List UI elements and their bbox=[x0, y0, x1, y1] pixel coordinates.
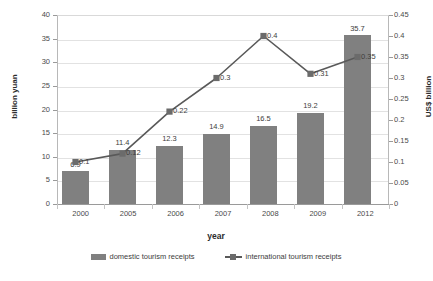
legend-item-domestic: domestic tourism receipts bbox=[91, 252, 195, 261]
x-axis-tick-2008: 2008 bbox=[247, 209, 294, 218]
x-axis-tick-2005: 2005 bbox=[104, 209, 151, 218]
marker-2006 bbox=[166, 109, 172, 115]
title-artifact bbox=[62, 1, 212, 5]
x-axis-title: year bbox=[0, 231, 432, 241]
point-label-2012: 0.35 bbox=[361, 53, 376, 61]
y-axis-tick-right: 0.15 bbox=[394, 137, 424, 145]
marker-2005 bbox=[119, 151, 125, 157]
y-axis-tick-left: 15 bbox=[26, 129, 50, 137]
point-label-2007: 0.3 bbox=[220, 74, 230, 82]
marker-2008 bbox=[260, 33, 266, 39]
point-label-2000: 0.1 bbox=[79, 158, 89, 166]
y-axis-tick-right: 0.45 bbox=[394, 11, 424, 19]
x-axis-tick-2012: 2012 bbox=[342, 209, 389, 218]
point-label-2006: 0.22 bbox=[173, 107, 188, 115]
x-axis-tick-2007: 2007 bbox=[199, 209, 246, 218]
y-axis-tick-right: 0.05 bbox=[394, 179, 424, 187]
y-axis-tick-left: 20 bbox=[26, 106, 50, 114]
y-axis-tick-right: 0.25 bbox=[394, 95, 424, 103]
y-axis-tick-left: 10 bbox=[26, 153, 50, 161]
y-axis-tick-right: 0.1 bbox=[394, 158, 424, 166]
y-axis-title-right: US$ billion bbox=[424, 57, 433, 137]
y-axis-tick-right: 0 bbox=[394, 200, 424, 208]
y-axis-tick-left: 5 bbox=[26, 176, 50, 184]
legend-label-international: international tourism receipts bbox=[246, 252, 342, 261]
y-axis-tick-left: 30 bbox=[26, 58, 50, 66]
y-axis-title-left: billion yuan bbox=[10, 57, 19, 137]
y-axis-tick-right: 0.35 bbox=[394, 53, 424, 61]
y-axis-tick-right: 0.3 bbox=[394, 74, 424, 82]
y-axis-tick-right: 0.4 bbox=[394, 32, 424, 40]
legend-bar-swatch-icon bbox=[91, 254, 106, 260]
marker-2000 bbox=[72, 159, 78, 165]
x-axis-tick-2000: 2000 bbox=[57, 209, 104, 218]
marker-2012 bbox=[354, 54, 360, 60]
point-label-2009: 0.31 bbox=[314, 70, 329, 78]
point-label-2008: 0.4 bbox=[267, 32, 277, 40]
international-line bbox=[76, 36, 358, 162]
x-axis-tick-2009: 2009 bbox=[294, 209, 341, 218]
line-series bbox=[57, 15, 389, 204]
y-axis-tick-left: 25 bbox=[26, 82, 50, 90]
chart-legend: domestic tourism receipts international … bbox=[0, 252, 432, 261]
point-label-2005: 0.12 bbox=[126, 149, 141, 157]
y-axis-tick-left: 0 bbox=[26, 200, 50, 208]
x-axis-line bbox=[57, 204, 389, 205]
y-axis-tick-left: 40 bbox=[26, 11, 50, 19]
y-axis-tick-left: 35 bbox=[26, 35, 50, 43]
y-axis-tick-right: 0.2 bbox=[394, 116, 424, 124]
legend-label-domestic: domestic tourism receipts bbox=[110, 252, 195, 261]
x-axis-tick-2006: 2006 bbox=[152, 209, 199, 218]
marker-2009 bbox=[307, 71, 313, 77]
marker-2007 bbox=[213, 75, 219, 81]
legend-line-marker-icon bbox=[225, 253, 242, 260]
legend-item-international: international tourism receipts bbox=[225, 252, 342, 261]
